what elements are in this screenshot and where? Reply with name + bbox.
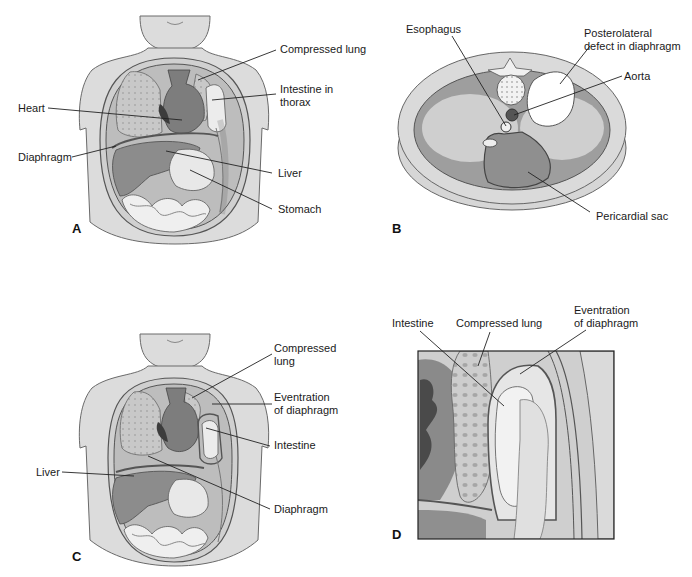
label-intestine: Intestine	[274, 439, 316, 451]
esophagus	[501, 122, 511, 132]
compressed-lung	[451, 351, 492, 502]
label-eventration-2: of diaphragm	[574, 317, 638, 329]
figure: Compressed lung Intestine in thorax Hear…	[0, 0, 692, 577]
label-compressed-lung: Compressed lung	[280, 43, 366, 55]
intestine	[202, 421, 218, 459]
label-diaphragm: Diaphragm	[18, 151, 72, 163]
panel-letter-a: A	[72, 221, 82, 236]
panel-a: Compressed lung Intestine in thorax Hear…	[18, 16, 366, 244]
label-heart: Heart	[18, 102, 45, 114]
label-eventration-1: Eventration	[274, 391, 330, 403]
label-esophagus: Esophagus	[406, 23, 462, 35]
label-compressed-lung-2: lung	[274, 355, 295, 367]
panel-letter-b: B	[392, 221, 401, 236]
panel-letter-d: D	[392, 527, 401, 542]
label-pericardial-sac: Pericardial sac	[596, 210, 669, 222]
head	[140, 334, 210, 370]
label-compressed-lung: Compressed lung	[456, 317, 542, 329]
panel-c: Compressed lung Eventration of diaphragm…	[36, 334, 338, 566]
label-aorta: Aorta	[624, 70, 651, 82]
label-liver: Liver	[278, 167, 302, 179]
label-intestine-in-thorax-1: Intestine in	[280, 83, 333, 95]
label-intestine: Intestine	[392, 317, 434, 329]
panel-letter-c: C	[72, 549, 82, 564]
head	[140, 16, 210, 52]
label-intestine-in-thorax-2: thorax	[280, 96, 311, 108]
label-liver: Liver	[36, 466, 60, 478]
label-eventration-1: Eventration	[574, 304, 630, 316]
label-stomach: Stomach	[278, 203, 321, 215]
aorta	[506, 109, 518, 121]
panel-d: Intestine Compressed lung Eventration of…	[392, 304, 638, 542]
label-posterolateral-2: defect in diaphragm	[584, 40, 681, 52]
panel-b: Esophagus Posterolateral defect in diaph…	[392, 23, 681, 236]
left-lung	[116, 72, 162, 137]
label-eventration-2: of diaphragm	[274, 404, 338, 416]
vertebral-body	[497, 75, 525, 105]
label-diaphragm: Diaphragm	[274, 503, 328, 515]
label-posterolateral-1: Posterolateral	[584, 27, 652, 39]
label-compressed-lung-1: Compressed	[274, 342, 336, 354]
